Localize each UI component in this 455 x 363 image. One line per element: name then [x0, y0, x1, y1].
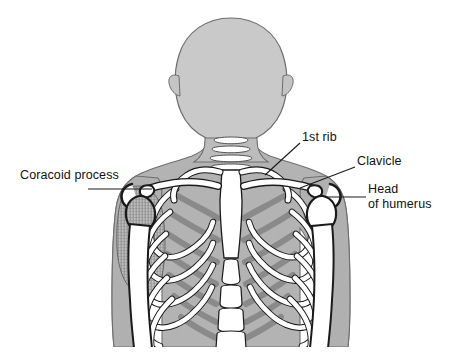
- ear-left: [169, 75, 180, 96]
- label-head-of-humerus-line2: of humerus: [368, 197, 432, 211]
- label-first-rib: 1st rib: [302, 130, 337, 145]
- label-coracoid-process: Coracoid process: [20, 168, 119, 183]
- label-head-of-humerus-line1: Head: [368, 182, 398, 196]
- anatomy-figure: Coracoid process 1st rib Clavicle Headof…: [0, 0, 455, 363]
- head-silhouette: [175, 18, 287, 138]
- label-clavicle: Clavicle: [357, 154, 402, 169]
- label-head-of-humerus: Headof humerus: [368, 182, 432, 212]
- sternum: [220, 170, 242, 258]
- ear-right: [282, 75, 293, 96]
